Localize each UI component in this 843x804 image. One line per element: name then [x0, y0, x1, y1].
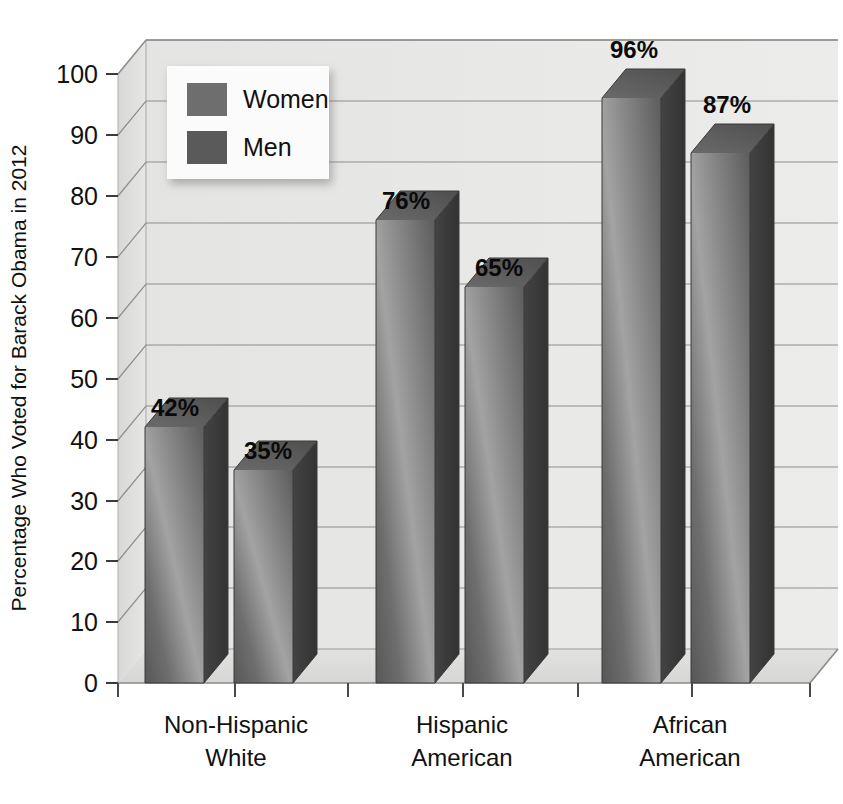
- y-axis-title: Percentage Who Voted for Barack Obama in…: [7, 145, 30, 612]
- y-axis-ticks: [106, 74, 118, 683]
- ytick-label-0: 0: [84, 669, 98, 697]
- bar-side-face: [524, 258, 548, 683]
- x-tick-label-line1: Non-Hispanic: [164, 711, 308, 738]
- ytick-label-20: 20: [70, 547, 98, 575]
- bar-value-label: 42%: [151, 394, 199, 421]
- x-tick-label-line2: White: [205, 744, 266, 771]
- ytick-label-60: 60: [70, 304, 98, 332]
- bar-value-label: 65%: [475, 254, 523, 281]
- bar-non-hispanic-white-men[interactable]: [234, 441, 317, 683]
- bar-front-face: [691, 153, 750, 683]
- x-axis: Non-Hispanic White Hispanic American Afr…: [118, 683, 810, 771]
- x-tick-label-line2: American: [411, 744, 512, 771]
- x-tick-label-african-american: African American: [639, 711, 740, 771]
- bar-front-face: [145, 427, 204, 683]
- bar-side-face: [750, 124, 774, 683]
- bar-side-face: [661, 69, 685, 683]
- y-tick-labels: 0 10 20 30 40 50 60 70 80 90 100: [56, 60, 98, 697]
- x-tick-label-line2: American: [639, 744, 740, 771]
- bar-value-label: 87%: [703, 91, 751, 118]
- ytick-label-70: 70: [70, 243, 98, 271]
- bar-side-face: [293, 441, 317, 683]
- bar-side-face: [204, 398, 228, 683]
- ytick-label-100: 100: [56, 60, 98, 88]
- ytick-label-10: 10: [70, 608, 98, 636]
- ytick-label-30: 30: [70, 487, 98, 515]
- bar-value-label: 96%: [610, 36, 658, 63]
- x-axis-ticks: [118, 683, 810, 697]
- ytick-label-90: 90: [70, 121, 98, 149]
- x-tick-label-hispanic-american: Hispanic American: [411, 711, 512, 771]
- bar-side-face: [435, 191, 459, 683]
- chart-canvas: 0 10 20 30 40 50 60 70 80 90 100 Percent…: [0, 0, 843, 804]
- bar-african-american-women[interactable]: [602, 69, 685, 683]
- bar-value-label: 35%: [244, 437, 292, 464]
- legend-label-men: Men: [243, 133, 292, 161]
- bar-hispanic-american-men[interactable]: [465, 258, 548, 683]
- bar-value-label: 76%: [382, 187, 430, 214]
- bar-front-face: [234, 470, 293, 683]
- bar-african-american-men[interactable]: [691, 124, 774, 683]
- x-tick-label-line1: Hispanic: [416, 711, 508, 738]
- x-tick-label-line1: African: [653, 711, 728, 738]
- bar-non-hispanic-white-women[interactable]: [145, 398, 228, 683]
- bar-front-face: [376, 220, 435, 683]
- legend-item-women[interactable]: Women: [187, 83, 329, 116]
- bar-front-face: [602, 98, 661, 683]
- ytick-label-80: 80: [70, 182, 98, 210]
- y-axis: 0 10 20 30 40 50 60 70 80 90 100 Percent…: [7, 60, 118, 697]
- legend-label-women: Women: [243, 85, 329, 113]
- bar-hispanic-american-women[interactable]: [376, 191, 459, 683]
- legend-swatch-women: [187, 83, 227, 116]
- ytick-label-50: 50: [70, 365, 98, 393]
- legend[interactable]: Women Men: [167, 66, 329, 179]
- bar-chart: 0 10 20 30 40 50 60 70 80 90 100 Percent…: [0, 0, 843, 804]
- legend-swatch-men: [187, 131, 227, 164]
- ytick-label-40: 40: [70, 426, 98, 454]
- bar-front-face: [465, 287, 524, 683]
- x-tick-label-non-hispanic-white: Non-Hispanic White: [164, 711, 308, 771]
